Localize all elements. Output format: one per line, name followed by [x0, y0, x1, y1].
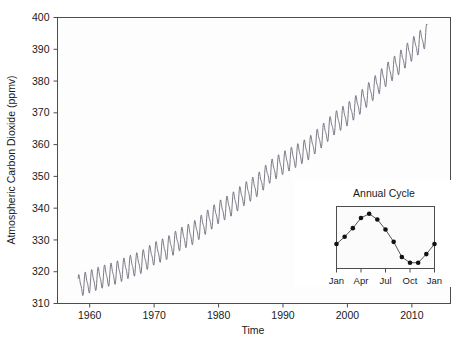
inset-data-point	[424, 252, 429, 257]
co2-chart-svg: 310320330340350360370380390400 196019701…	[0, 0, 469, 343]
svg-text:400: 400	[32, 11, 50, 23]
inset-data-point	[432, 242, 437, 247]
svg-text:1990: 1990	[271, 309, 295, 321]
x-axis-title: Time	[242, 324, 265, 336]
inset-data-point	[383, 227, 388, 232]
inset-data-point	[375, 217, 380, 222]
svg-text:Oct: Oct	[403, 275, 418, 286]
inset-plot-frame	[337, 207, 435, 269]
svg-text:390: 390	[32, 43, 50, 55]
inset-title: Annual Cycle	[353, 187, 415, 199]
inset-data-point	[400, 255, 405, 260]
svg-text:350: 350	[32, 170, 50, 182]
inset-data-point	[391, 240, 396, 245]
inset-data-point	[334, 242, 339, 247]
svg-text:360: 360	[32, 138, 50, 150]
svg-text:Apr: Apr	[354, 275, 369, 286]
chart-canvas: 310320330340350360370380390400 196019701…	[0, 0, 469, 343]
y-axis-title: Atmospheric Carbon Dioxide (ppmv)	[5, 75, 17, 244]
inset-data-point	[367, 211, 372, 216]
svg-text:2000: 2000	[336, 309, 360, 321]
svg-text:320: 320	[32, 265, 50, 277]
svg-text:330: 330	[32, 234, 50, 246]
svg-text:Jan: Jan	[427, 275, 442, 286]
inset-data-point	[351, 226, 356, 231]
svg-text:370: 370	[32, 106, 50, 118]
svg-text:Jul: Jul	[379, 275, 391, 286]
inset-data-point	[416, 260, 421, 265]
inset-data-point	[342, 234, 347, 239]
svg-text:340: 340	[32, 202, 50, 214]
svg-text:1980: 1980	[207, 309, 231, 321]
svg-text:Jan: Jan	[329, 275, 344, 286]
svg-text:310: 310	[32, 297, 50, 309]
svg-text:2010: 2010	[400, 309, 424, 321]
svg-text:1970: 1970	[142, 309, 166, 321]
inset-data-point	[408, 260, 413, 265]
svg-text:1960: 1960	[78, 309, 102, 321]
annual-cycle-inset: Annual Cycle JanAprJulOctJan	[294, 180, 459, 287]
svg-text:380: 380	[32, 75, 50, 87]
inset-data-point	[359, 216, 364, 221]
